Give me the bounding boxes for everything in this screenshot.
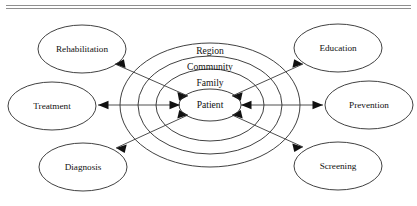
ring-label-family: Family xyxy=(196,77,223,88)
connector-line xyxy=(116,115,188,148)
ring-label-region: Region xyxy=(196,45,224,56)
node-prevention: Prevention xyxy=(325,81,413,129)
connector-patient-diagnosis xyxy=(116,110,188,153)
ring-label-patient: Patient xyxy=(197,99,224,110)
connector-patient-treatment xyxy=(98,101,180,109)
connector-patient-rehabilitation xyxy=(115,59,188,100)
core-group: Patient xyxy=(179,89,241,121)
node-screening: Screening xyxy=(294,142,382,190)
node-screening-label: Screening xyxy=(320,161,357,171)
node-treatment-label: Treatment xyxy=(33,101,71,111)
node-rehabilitation: Rehabilitation xyxy=(38,25,126,73)
node-prevention-label: Prevention xyxy=(349,100,389,110)
arrow-head-inward xyxy=(170,101,181,109)
connector-line xyxy=(232,115,303,147)
arrow-head-inward xyxy=(241,101,252,109)
node-diagnosis: Diagnosis xyxy=(39,143,127,191)
node-diagnosis-label: Diagnosis xyxy=(65,162,102,172)
node-education-label: Education xyxy=(319,43,357,53)
arrow-head-outward xyxy=(313,101,324,109)
arrow-head-outward xyxy=(98,101,109,109)
node-rehabilitation-label: Rehabilitation xyxy=(56,44,108,54)
connector-line xyxy=(115,64,188,96)
node-treatment: Treatment xyxy=(8,82,96,130)
ring-label-community: Community xyxy=(187,61,233,72)
node-education: Education xyxy=(294,24,382,72)
figure-root: Patient Region Community Family Rehabili… xyxy=(0,0,417,206)
concentric-model-diagram: Patient Region Community Family Rehabili… xyxy=(0,0,417,206)
ring-label-group: Region Community Family xyxy=(187,45,233,88)
connector-patient-screening xyxy=(232,110,303,152)
